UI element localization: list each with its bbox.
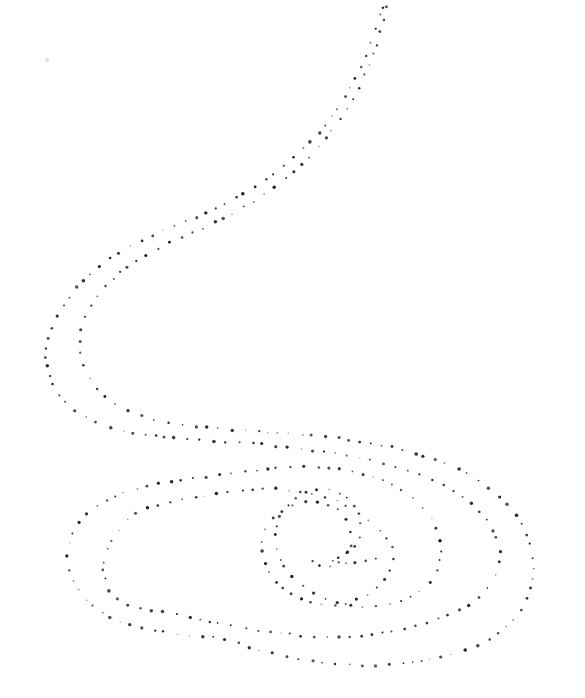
stray-marks-group — [45, 58, 49, 62]
swirl-stroke-group-outer — [44, 0, 502, 639]
drawing-page — [0, 0, 585, 698]
swirl-stroke-group-inner — [65, 0, 534, 668]
dotted-swirl-drawing — [0, 0, 585, 698]
